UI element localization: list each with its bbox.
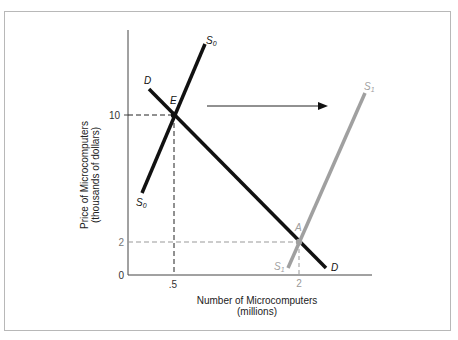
x-tick-05: .5 <box>169 279 178 290</box>
shift-arrow-head-icon <box>318 102 328 110</box>
label-s1-top: S1 <box>364 81 375 93</box>
label-s0-bottom: S0 <box>136 197 147 209</box>
y-tick-2: 2 <box>118 237 124 248</box>
label-d-top: D <box>144 75 151 86</box>
equilibrium-point-a <box>296 239 302 245</box>
label-point-a: A <box>294 222 302 233</box>
y-tick-10: 10 <box>109 110 121 121</box>
y-tick-0: 0 <box>118 270 124 281</box>
x-tick-2: 2 <box>296 278 302 289</box>
supply-demand-chart: S0 S0 D D S1 S1 E A 10 2 0 .5 2 Number o… <box>0 0 458 340</box>
supply-curve-s0 <box>142 44 205 193</box>
label-s0-top: S0 <box>206 35 217 47</box>
y-axis-title: Price of Microcomputers <box>79 121 90 229</box>
y-axis-subtitle: (thousands of dollars) <box>90 127 101 223</box>
x-axis-title: Number of Microcomputers <box>197 295 318 306</box>
label-s1-bottom: S1 <box>274 261 285 273</box>
label-d-bottom: D <box>331 262 338 273</box>
equilibrium-point-e <box>171 112 177 118</box>
label-point-e: E <box>170 95 177 106</box>
x-axis-subtitle: (millions) <box>237 306 277 317</box>
